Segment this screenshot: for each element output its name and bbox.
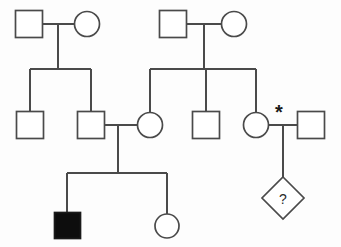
female-circle-symbol bbox=[155, 214, 179, 238]
generation-2-group: * bbox=[17, 101, 325, 139]
question-mark-label: ? bbox=[279, 191, 287, 207]
individual-i-3[interactable] bbox=[160, 11, 187, 38]
male-square-symbol bbox=[298, 112, 325, 139]
individual-ii-6[interactable] bbox=[298, 112, 325, 139]
female-circle-symbol bbox=[75, 12, 100, 37]
male-square-symbol bbox=[16, 11, 43, 38]
female-circle-symbol bbox=[222, 12, 247, 37]
individual-ii-1[interactable] bbox=[17, 112, 44, 139]
individual-ii-5[interactable] bbox=[244, 113, 269, 138]
individual-iii-3[interactable]: ? bbox=[262, 177, 304, 219]
individual-ii-4[interactable] bbox=[193, 112, 220, 139]
male-square-symbol bbox=[160, 11, 187, 38]
individual-i-4[interactable] bbox=[222, 12, 247, 37]
individual-ii-3[interactable] bbox=[138, 113, 163, 138]
pedigree-canvas: * ? bbox=[0, 0, 341, 247]
male-square-symbol bbox=[193, 112, 220, 139]
individual-iii-1[interactable] bbox=[55, 213, 81, 239]
generation-3-group: ? bbox=[55, 177, 305, 239]
individual-i-2[interactable] bbox=[75, 12, 100, 37]
individual-iii-2[interactable] bbox=[155, 214, 179, 238]
female-circle-symbol bbox=[244, 113, 269, 138]
individual-i-1[interactable] bbox=[16, 11, 43, 38]
male-square-symbol bbox=[17, 112, 44, 139]
asterisk-marker: * bbox=[275, 101, 283, 123]
male-square-symbol-affected bbox=[55, 213, 81, 239]
pedigree-chart: * ? bbox=[0, 0, 341, 247]
male-square-symbol bbox=[78, 112, 105, 139]
female-circle-symbol bbox=[138, 113, 163, 138]
individual-ii-2[interactable] bbox=[78, 112, 105, 139]
